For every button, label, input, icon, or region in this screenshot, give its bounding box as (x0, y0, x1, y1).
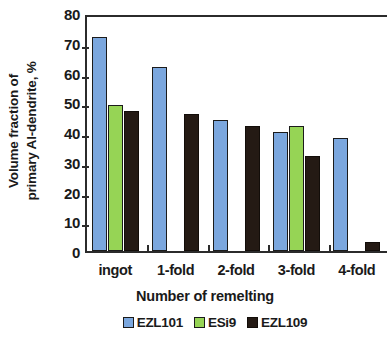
y-axis-tick-label: 20 (44, 186, 80, 201)
y-axis-tick-label: 0 (44, 245, 80, 260)
blue-square-swatch (123, 317, 134, 328)
y-axis-tick-labels: 80706050403020100 (44, 0, 80, 262)
y-axis-tick-label: 30 (44, 156, 80, 171)
x-axis-tick-mark (147, 245, 149, 251)
bar-ezl109-2-fold (245, 126, 260, 251)
bar-ezl101-4-fold (333, 138, 348, 251)
bar-esi9-3-fold (289, 126, 304, 251)
bar-ezl101-ingot (92, 37, 107, 251)
legend-label: EZL109 (261, 315, 307, 330)
bar-ezl109-1-fold (184, 114, 199, 251)
legend-item-ezl109[interactable]: EZL109 (247, 315, 307, 330)
y-axis-tick-label: 50 (44, 96, 80, 111)
y-axis-tick-mark (82, 106, 89, 108)
x-axis-tick-label-4-fold: 4-fold (321, 262, 391, 278)
y-axis-tick-mark (82, 47, 89, 49)
bar-ezl101-1-fold (152, 67, 167, 251)
legend-label: EZL101 (137, 315, 183, 330)
y-axis-title: Volume fraction of primary Al-dendrite, … (0, 0, 46, 262)
bar-ezl109-ingot (124, 111, 139, 251)
y-axis-tick-label: 40 (44, 126, 80, 141)
black-square-swatch (247, 317, 258, 328)
y-axis-tick-mark (82, 196, 89, 198)
legend-item-ezl101[interactable]: EZL101 (123, 315, 183, 330)
y-axis-tick-label: 60 (44, 67, 80, 82)
y-axis-tick-label: 70 (44, 37, 80, 52)
bar-ezl101-3-fold (273, 132, 288, 251)
plot-inner (87, 17, 387, 251)
legend-item-esi9[interactable]: ESi9 (194, 315, 236, 330)
y-axis-title-line1: Volume fraction of (5, 61, 23, 200)
y-axis-tick-mark (82, 77, 89, 79)
x-axis-tick-mark (208, 245, 210, 251)
x-axis-title: Number of remelting (60, 288, 350, 304)
y-axis-tick-label: 10 (44, 215, 80, 230)
y-axis-tick-mark (82, 225, 89, 227)
plot-area (85, 15, 387, 253)
green-square-swatch (194, 317, 205, 328)
y-axis-title-line2: primary Al-dendrite, % (23, 61, 41, 200)
bar-ezl109-4-fold (365, 242, 380, 251)
bar-ezl109-3-fold (305, 156, 320, 251)
y-axis-tick-label: 80 (44, 7, 80, 22)
x-axis-tick-mark (329, 245, 331, 251)
bar-ezl101-2-fold (213, 120, 228, 251)
bar-esi9-ingot (108, 105, 123, 251)
legend-label: ESi9 (208, 315, 236, 330)
y-axis-tick-mark (82, 166, 89, 168)
y-axis-tick-mark (82, 136, 89, 138)
chart-legend: EZL101ESi9EZL109 (60, 315, 370, 330)
x-axis-tick-mark (268, 245, 270, 251)
